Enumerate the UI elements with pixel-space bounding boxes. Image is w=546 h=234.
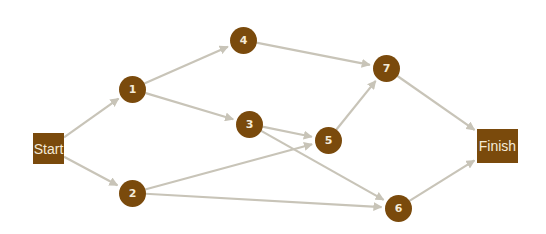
node-label: 4: [240, 34, 248, 47]
node-4: 4: [230, 27, 257, 54]
edge-start-to-1: [64, 99, 119, 138]
edge-6-to-finish: [409, 160, 474, 201]
edge-4-to-7: [256, 43, 370, 65]
edge-1-to-4: [144, 47, 228, 84]
edge-5-to-7: [336, 81, 375, 130]
node-6: 6: [385, 195, 412, 222]
node-start: Start: [33, 133, 64, 164]
node-finish: Finish: [477, 129, 518, 163]
node-2: 2: [119, 180, 146, 207]
edge-1-to-3: [145, 93, 233, 119]
node-label: 3: [246, 118, 254, 131]
edges-layer: [0, 0, 546, 234]
network-diagram: Start 1 2 3 4 5 6 7 Finish: [0, 0, 546, 234]
node-1: 1: [119, 76, 146, 103]
node-3: 3: [236, 111, 263, 138]
node-label: Finish: [479, 138, 516, 154]
edge-2-to-5: [145, 144, 312, 189]
node-label: 2: [129, 187, 137, 200]
node-7: 7: [373, 55, 400, 82]
edge-start-to-2: [64, 157, 117, 185]
node-label: 6: [395, 202, 403, 215]
edge-2-to-6: [145, 194, 381, 207]
node-label: Start: [34, 141, 64, 157]
node-label: 7: [383, 62, 391, 75]
node-label: 5: [325, 134, 333, 147]
node-5: 5: [315, 127, 342, 154]
node-label: 1: [129, 83, 137, 96]
edge-7-to-finish: [397, 76, 474, 130]
